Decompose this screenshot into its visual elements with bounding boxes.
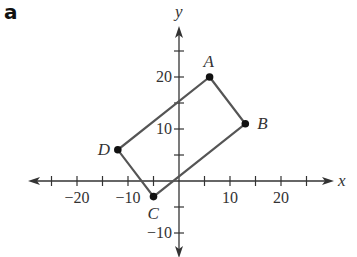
x-tick-label: 20 [273, 189, 289, 206]
labels: −20−1010202010−10xyABCD [64, 2, 346, 241]
coordinate-plane: −20−1010202010−10xyABCD [0, 0, 357, 257]
x-axis-label: x [337, 171, 346, 190]
vertex-label-b: B [257, 114, 268, 133]
vertex-point-b [242, 120, 250, 128]
x-tick-label: 10 [222, 189, 238, 206]
vertex-point-c [150, 193, 158, 201]
vertex-label-d: D [97, 140, 111, 159]
axes [28, 26, 334, 257]
y-tick-label: −10 [147, 224, 172, 241]
x-tick-label: −10 [115, 189, 140, 206]
y-tick-label: 10 [156, 120, 172, 137]
rectangle-outline [118, 77, 246, 197]
vertex-label-c: C [148, 204, 160, 223]
x-tick-label: −20 [64, 189, 89, 206]
vertex-label-a: A [203, 52, 215, 71]
y-tick-label: 20 [156, 68, 172, 85]
vertex-point-d [114, 146, 122, 154]
y-axis-label: y [173, 2, 183, 21]
vertex-point-a [206, 73, 214, 81]
